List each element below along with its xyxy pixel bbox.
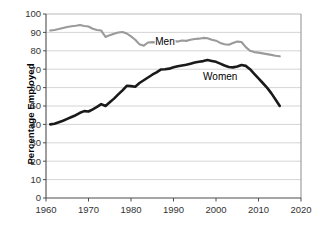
series-line-women bbox=[50, 60, 280, 124]
employment-line-chart: Percentage Employed 01020304050607080901… bbox=[0, 0, 324, 228]
series-label-women: Women bbox=[203, 71, 237, 82]
y-tick-label: 100 bbox=[25, 8, 41, 19]
y-tick-label: 60 bbox=[30, 82, 41, 93]
y-tick-label: 10 bbox=[30, 174, 41, 185]
y-tick-label: 30 bbox=[30, 137, 41, 148]
chart-plot-area: 0102030405060708090100196019701980199020… bbox=[0, 0, 324, 228]
series-label-men: Men bbox=[155, 36, 174, 47]
y-tick-label: 90 bbox=[30, 27, 41, 38]
y-tick-label: 20 bbox=[30, 156, 41, 167]
y-tick-label: 70 bbox=[30, 64, 41, 75]
y-tick-label: 80 bbox=[30, 45, 41, 56]
x-tick-label: 1960 bbox=[35, 204, 56, 215]
x-tick-label: 1970 bbox=[78, 204, 99, 215]
x-tick-label: 2010 bbox=[248, 204, 269, 215]
y-tick-label: 0 bbox=[36, 192, 41, 203]
x-tick-label: 2000 bbox=[205, 204, 226, 215]
y-tick-label: 50 bbox=[30, 100, 41, 111]
x-tick-label: 1980 bbox=[120, 204, 141, 215]
x-tick-label: 1990 bbox=[163, 204, 184, 215]
x-tick-label: 2020 bbox=[290, 204, 311, 215]
y-tick-label: 40 bbox=[30, 119, 41, 130]
